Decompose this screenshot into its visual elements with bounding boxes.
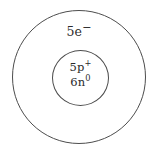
neutron-charge-superscript: 0 — [85, 73, 90, 83]
electron-charge-superscript: − — [82, 21, 91, 34]
electron-particle-symbol: e — [75, 24, 83, 39]
bohr-atomic-model-diagram: 5e− 5p+ 6n0 — [0, 0, 158, 153]
neutron-count-value: 6 — [70, 75, 78, 89]
proton-charge-superscript: + — [84, 58, 91, 68]
proton-count-value: 5 — [69, 60, 77, 74]
neutron-count-label: 6n0 — [52, 77, 109, 89]
electron-count-value: 5 — [66, 24, 74, 39]
nucleus-composition-labels: 5p+ 6n0 — [52, 62, 109, 91]
proton-count-label: 5p+ — [52, 62, 109, 74]
electron-count-label: 5e− — [0, 26, 158, 39]
